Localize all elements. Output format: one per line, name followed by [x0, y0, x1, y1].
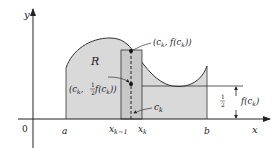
x-axis-label: x [252, 124, 258, 135]
point-top [129, 49, 133, 53]
label-mid-point: (ck, [69, 84, 84, 95]
label-mid-point-rest: f(ck)) [94, 84, 117, 95]
origin-label: 0 [22, 124, 28, 134]
dim-half-den: 2 [221, 101, 225, 108]
centroid-diagram: y x 0 R a xk−1 xk b (ck, f(ck)) (ck, 1 2… [0, 0, 274, 148]
tick-b: b [204, 126, 210, 136]
tick-x-k: xk [138, 124, 147, 136]
dim-half-num: 1 [221, 93, 225, 100]
point-mid [129, 82, 133, 86]
tick-a: a [62, 126, 67, 136]
label-top-point: (ck, f(ck)) [153, 37, 192, 48]
tick-x-km1: xk−1 [109, 124, 128, 136]
y-axis-label: y [23, 9, 30, 20]
region-label: R [90, 55, 99, 68]
label-half-height: f(ck) [240, 96, 259, 107]
leader-top [133, 43, 151, 50]
